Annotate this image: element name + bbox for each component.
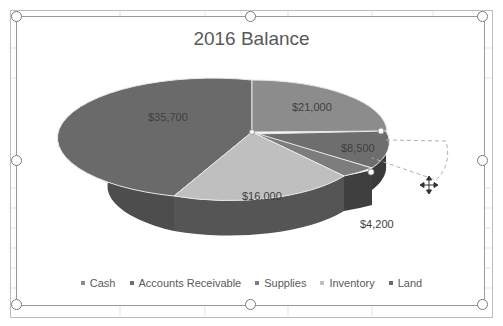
handle-point[interactable] <box>368 169 374 175</box>
legend-label: Land <box>398 277 422 289</box>
handle-point[interactable] <box>378 128 384 134</box>
resize-handle-top-right[interactable] <box>477 11 488 22</box>
legend-item-cash[interactable]: Cash <box>81 277 116 289</box>
legend-swatch-icon <box>389 281 393 285</box>
data-label-supplies[interactable]: $4,200 <box>360 218 394 230</box>
legend-item-land[interactable]: Land <box>389 277 422 289</box>
resize-handle-bottom-left[interactable] <box>11 299 22 310</box>
legend-swatch-icon <box>130 281 134 285</box>
legend-label: Supplies <box>264 277 306 289</box>
legend-item-inventory[interactable]: Inventory <box>320 277 374 289</box>
legend-item-accounts-receivable[interactable]: Accounts Receivable <box>130 277 242 289</box>
slice-side-supplies[interactable] <box>344 170 372 211</box>
data-label-ar[interactable]: $8,500 <box>341 142 375 154</box>
resize-handle-bottom[interactable] <box>245 299 256 310</box>
legend-label: Accounts Receivable <box>139 277 242 289</box>
handle-center[interactable] <box>250 130 255 135</box>
legend-swatch-icon <box>81 281 85 285</box>
resize-handle-right[interactable] <box>477 155 488 166</box>
legend-item-supplies[interactable]: Supplies <box>255 277 306 289</box>
data-label-inventory[interactable]: $16,000 <box>242 190 282 202</box>
legend-label: Inventory <box>329 277 374 289</box>
move-cursor-icon <box>420 176 438 194</box>
resize-handle-top-left[interactable] <box>11 11 22 22</box>
legend-swatch-icon <box>255 281 259 285</box>
chart-legend[interactable]: Cash Accounts Receivable Supplies Invent… <box>0 277 503 289</box>
resize-handle-left[interactable] <box>11 155 22 166</box>
data-label-cash[interactable]: $21,000 <box>292 101 332 113</box>
legend-label: Cash <box>90 277 116 289</box>
resize-handle-bottom-right[interactable] <box>477 299 488 310</box>
legend-swatch-icon <box>320 281 324 285</box>
data-label-land[interactable]: $35,700 <box>148 111 188 123</box>
resize-handle-top[interactable] <box>245 11 256 22</box>
